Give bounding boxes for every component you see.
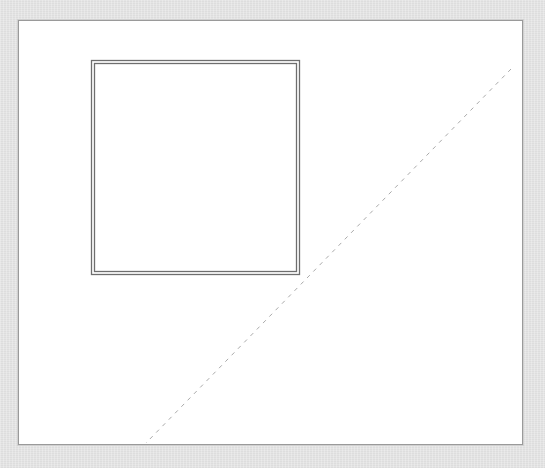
dashed-diagonal-line[interactable] <box>146 69 511 443</box>
shapes-layer <box>0 0 545 468</box>
square-outer-border[interactable] <box>92 61 300 275</box>
square-inner-border <box>95 64 297 272</box>
